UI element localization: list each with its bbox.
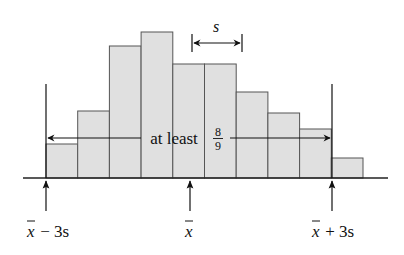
tick-label-mean: x	[184, 221, 193, 241]
sd-label: s	[213, 18, 219, 35]
histogram-bar	[78, 111, 110, 178]
fraction-denominator: 9	[215, 139, 221, 153]
range-label: at least	[150, 129, 198, 148]
tick-label-mean-plus-3s: x + 3s	[311, 221, 354, 241]
histogram-bar	[331, 158, 363, 178]
tick-labels: x − 3s x x + 3s	[26, 221, 354, 241]
svg-text:x: x	[26, 222, 35, 241]
svg-text:− 3s: − 3s	[36, 222, 69, 241]
svg-text:x: x	[311, 222, 320, 241]
histogram-bar	[205, 64, 237, 178]
histogram-bars	[46, 32, 363, 178]
histogram-bar	[46, 144, 78, 178]
fraction-numerator: 8	[215, 125, 221, 139]
svg-text:x: x	[184, 222, 193, 241]
histogram-bar	[300, 129, 332, 178]
histogram-bar	[236, 92, 268, 178]
chebyshev-histogram: s at least 8 9 x − 3s x x + 3s	[0, 0, 404, 255]
tick-arrows	[46, 181, 332, 211]
histogram-bar	[109, 46, 141, 178]
histogram-bar	[173, 64, 205, 178]
sd-width-marker: s	[192, 18, 242, 52]
histogram-bar	[141, 32, 173, 178]
tick-label-mean-minus-3s: x − 3s	[26, 221, 69, 241]
svg-text:+ 3s: + 3s	[321, 222, 354, 241]
histogram-bar	[268, 113, 300, 178]
